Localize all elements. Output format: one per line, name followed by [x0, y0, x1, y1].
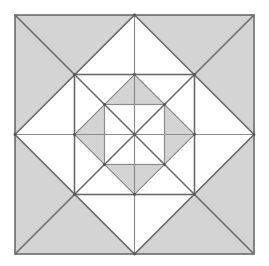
vertex-dot — [73, 193, 76, 196]
vertex-dot — [163, 103, 166, 106]
diagram-canvas — [0, 0, 269, 266]
vertex-dot — [253, 133, 256, 136]
vertex-dot — [103, 103, 106, 106]
vertex-dot — [103, 163, 106, 166]
vertex-dot — [193, 133, 196, 136]
vertex-dot — [133, 133, 136, 136]
vertex-dot — [14, 133, 17, 136]
vertex-dot — [193, 193, 196, 196]
vertex-dot — [133, 14, 136, 17]
vertex-dot — [73, 133, 76, 136]
vertex-dot — [133, 193, 136, 196]
nested-squares-diagram — [0, 0, 269, 266]
vertex-dot — [133, 253, 136, 256]
vertex-dot — [73, 73, 76, 76]
vertex-dot — [163, 163, 166, 166]
vertex-dot — [133, 73, 136, 76]
vertex-dot — [193, 73, 196, 76]
